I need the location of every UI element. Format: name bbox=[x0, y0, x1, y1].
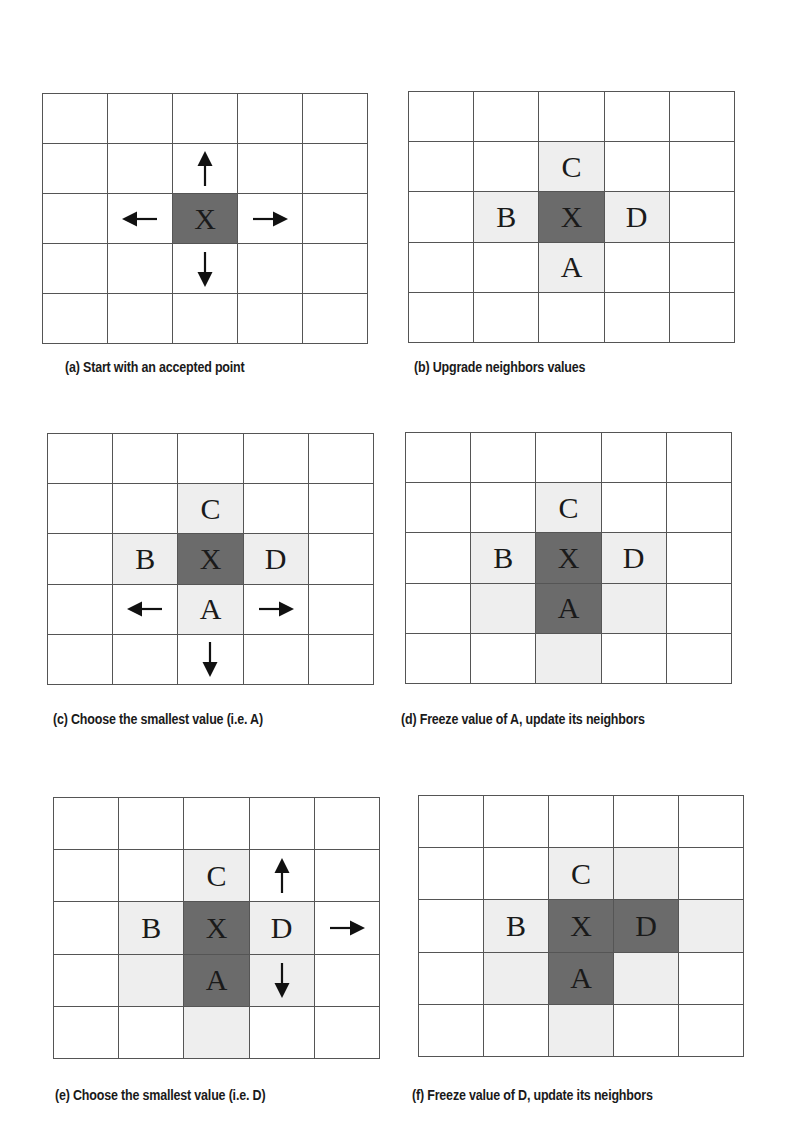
grid-cell bbox=[605, 92, 670, 142]
grid-cell bbox=[602, 634, 667, 684]
grid-cell bbox=[670, 192, 735, 242]
cell-label: D bbox=[626, 200, 648, 234]
grid-cell bbox=[471, 483, 536, 533]
grid-cell bbox=[315, 955, 380, 1007]
grid-cell bbox=[108, 94, 173, 144]
cell-label: A bbox=[570, 961, 592, 995]
trial-cell: D bbox=[605, 192, 670, 242]
grid-cell bbox=[303, 294, 368, 344]
cell-label: C bbox=[571, 857, 591, 891]
grid-cell bbox=[549, 796, 614, 848]
grid-cell bbox=[419, 848, 484, 900]
grid-cell bbox=[419, 1005, 484, 1057]
trial-cell bbox=[484, 953, 549, 1005]
arrow-down-icon bbox=[190, 639, 230, 679]
cell-label: X bbox=[206, 911, 228, 945]
trial-cell bbox=[184, 1007, 249, 1059]
trial-cell bbox=[679, 900, 744, 952]
grid-cell bbox=[238, 194, 303, 244]
trial-cell bbox=[614, 953, 679, 1005]
grid-cell bbox=[43, 194, 108, 244]
grid-cell bbox=[539, 92, 604, 142]
arrow-left-icon bbox=[125, 589, 165, 629]
cell-label: A bbox=[200, 592, 222, 626]
arrow-down-icon bbox=[262, 960, 302, 1000]
cell-label: B bbox=[506, 909, 526, 943]
frozen-cell: X bbox=[173, 194, 238, 244]
panel-caption: (c) Choose the smallest value (i.e. A) bbox=[53, 711, 263, 727]
grid-cell bbox=[113, 484, 178, 534]
grid-cell bbox=[173, 244, 238, 294]
trial-cell: A bbox=[539, 243, 604, 293]
grid-cell bbox=[602, 433, 667, 483]
grid-cell bbox=[108, 294, 173, 344]
panel-caption: (e) Choose the smallest value (i.e. D) bbox=[55, 1087, 265, 1103]
trial-cell: B bbox=[484, 900, 549, 952]
grid-cell bbox=[108, 194, 173, 244]
trial-cell bbox=[614, 848, 679, 900]
grid-cell bbox=[409, 142, 474, 192]
grid-cell bbox=[184, 798, 249, 850]
grid-cell bbox=[315, 902, 380, 954]
grid-cell bbox=[173, 294, 238, 344]
trial-cell: B bbox=[113, 534, 178, 584]
grid-cell bbox=[406, 483, 471, 533]
trial-cell: C bbox=[178, 484, 243, 534]
grid-cell bbox=[54, 1007, 119, 1059]
grid-cell bbox=[484, 848, 549, 900]
grid-cell bbox=[303, 194, 368, 244]
trial-cell: C bbox=[539, 142, 604, 192]
grid-cell bbox=[54, 798, 119, 850]
trial-cell: A bbox=[178, 585, 243, 635]
cell-label: D bbox=[265, 542, 287, 576]
grid-cell bbox=[679, 848, 744, 900]
cell-label: C bbox=[200, 492, 220, 526]
grid-cell bbox=[315, 850, 380, 902]
grid-cell bbox=[614, 796, 679, 848]
trial-cell bbox=[602, 584, 667, 634]
cell-label: C bbox=[561, 150, 581, 184]
grid-cell bbox=[670, 142, 735, 192]
frozen-cell: X bbox=[536, 533, 601, 583]
grid-cell bbox=[536, 433, 601, 483]
grid-cell bbox=[471, 634, 536, 684]
frozen-cell: X bbox=[184, 902, 249, 954]
trial-cell: D bbox=[250, 902, 315, 954]
grid-cell bbox=[303, 94, 368, 144]
panel-caption: (d) Freeze value of A, update its neighb… bbox=[401, 711, 645, 727]
frozen-cell: X bbox=[549, 900, 614, 952]
grid-cell bbox=[43, 244, 108, 294]
grid-cell bbox=[409, 293, 474, 343]
cell-label: B bbox=[141, 911, 161, 945]
grid-cell bbox=[679, 796, 744, 848]
cell-label: A bbox=[206, 963, 228, 997]
cell-label: A bbox=[558, 591, 580, 625]
cell-label: B bbox=[496, 200, 516, 234]
grid-cell bbox=[238, 244, 303, 294]
grid-cell bbox=[43, 294, 108, 344]
arrow-right-icon bbox=[250, 199, 290, 239]
grid-cell bbox=[667, 634, 732, 684]
grid-cell bbox=[238, 144, 303, 194]
grid-cell bbox=[119, 850, 184, 902]
arrow-down-icon bbox=[185, 249, 225, 289]
grid-cell bbox=[108, 144, 173, 194]
frozen-cell: D bbox=[614, 900, 679, 952]
grid-cell bbox=[309, 484, 374, 534]
grid-cell bbox=[605, 142, 670, 192]
trial-cell bbox=[250, 955, 315, 1007]
trial-cell: C bbox=[549, 848, 614, 900]
grid-cell bbox=[474, 243, 539, 293]
trial-cell: B bbox=[471, 533, 536, 583]
grid-cell bbox=[250, 850, 315, 902]
trial-cell: C bbox=[536, 483, 601, 533]
cell-label: X bbox=[570, 909, 592, 943]
grid-cell bbox=[113, 434, 178, 484]
cell-label: B bbox=[135, 542, 155, 576]
trial-cell: B bbox=[119, 902, 184, 954]
arrow-right-icon bbox=[327, 908, 367, 948]
grid-5x5: CBXDA bbox=[53, 797, 380, 1059]
grid-cell bbox=[48, 585, 113, 635]
grid-cell bbox=[48, 484, 113, 534]
cell-label: X bbox=[200, 542, 222, 576]
